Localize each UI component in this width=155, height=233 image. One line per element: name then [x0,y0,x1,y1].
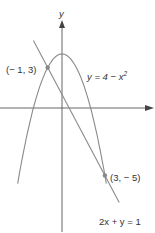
line-curve [33,41,119,203]
point-2-label: (3, − 5) [110,172,140,183]
y-axis-label: y [58,8,65,19]
line-equation-label: 2x + y = 1 [99,216,141,227]
parabola-equation-label: y = 4 − x2 [86,70,127,82]
graph-canvas: y (− 1, 3) y = 4 − x2 (3, − 5) 2x + y = … [0,0,155,233]
y-axis-arrow-icon [59,20,65,28]
x-axis-arrow-icon [145,105,154,111]
intersection-point-1 [46,65,50,69]
intersection-point-2 [103,173,107,177]
point-1-label: (− 1, 3) [6,64,36,75]
